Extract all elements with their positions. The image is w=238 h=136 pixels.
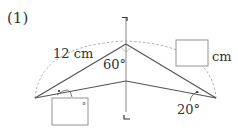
left-angle-arrow-icon xyxy=(58,90,60,92)
problem-label: (1) xyxy=(7,9,28,27)
right-angle-label: 20° xyxy=(177,102,200,117)
length-answer-box[interactable] xyxy=(176,40,208,66)
length-unit-label: cm xyxy=(212,49,232,64)
top-angle-label: 60° xyxy=(103,57,126,72)
right-angle-arrow-icon xyxy=(196,91,198,93)
bottom-fold-mark-icon xyxy=(124,115,130,119)
side-length-label: 12 cm xyxy=(53,46,93,61)
figure-diagram: (1) 12 cm 60° 20° cm ° xyxy=(0,0,238,136)
degree-mark: ° xyxy=(82,101,86,110)
